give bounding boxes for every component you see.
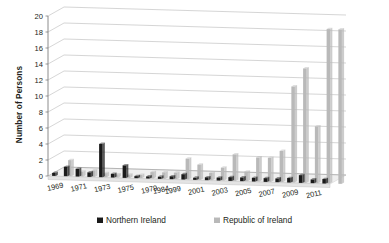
y-axis-tick-label: 8	[39, 108, 43, 117]
bar-northern-ireland	[76, 167, 82, 176]
bar-republic-of-ireland	[303, 67, 309, 183]
y-axis-tick-label: 18	[35, 28, 43, 37]
x-axis-tick-label: 2005	[234, 186, 252, 198]
chart-legend: Northern Ireland Republic of Ireland	[0, 216, 389, 224]
bar-northern-ireland	[299, 174, 305, 183]
y-axis-tick-label: 20	[35, 12, 43, 21]
x-axis-tick-label: 2009	[281, 187, 299, 199]
x-axis-tick-label: 2007	[258, 186, 276, 198]
y-axis-tick-label: 6	[39, 124, 43, 133]
x-axis-tick-label: 2003	[211, 185, 229, 197]
y-axis-tick-label: 2	[39, 156, 43, 165]
bar-northern-ireland	[64, 166, 70, 177]
bar-republic-of-ireland	[338, 28, 344, 184]
bar-northern-ireland	[322, 178, 328, 184]
bar-northern-ireland	[99, 143, 105, 178]
bar-republic-of-ireland	[291, 85, 297, 182]
y-axis-tick-label: 4	[39, 140, 43, 149]
legend-label-republic-of-ireland: Republic of Ireland	[223, 216, 292, 224]
y-axis-tick-label: 14	[35, 60, 43, 69]
legend-item-northern-ireland: Northern Ireland	[97, 216, 166, 224]
x-axis-tick-label: 1973	[93, 182, 111, 194]
chart-container: Number of Persons 0246810121416182019691…	[0, 0, 389, 243]
x-axis-tick-label: 1969	[46, 180, 64, 192]
y-axis-tick-label: 0	[39, 172, 43, 181]
bar-republic-of-ireland	[315, 125, 321, 183]
bar-northern-ireland	[287, 177, 293, 183]
x-axis-tick-label: 1971	[70, 181, 88, 193]
x-axis-tick-label: 2011	[305, 188, 323, 200]
x-axis-tick-label: 1975	[117, 182, 135, 194]
legend-label-northern-ireland: Northern Ireland	[106, 216, 166, 224]
bar-northern-ireland	[123, 164, 129, 178]
bar-northern-ireland	[181, 173, 187, 180]
legend-swatch-icon-northern-ireland	[97, 217, 103, 223]
bar-northern-ireland	[87, 171, 93, 177]
bar-republic-of-ireland	[327, 28, 333, 184]
legend-item-republic-of-ireland: Republic of Ireland	[214, 216, 292, 224]
y-axis-tick-label: 10	[35, 92, 43, 101]
x-axis-tick-label: 2001	[187, 184, 205, 196]
y-axis-tick-label: 16	[35, 44, 43, 53]
chart-plot-area: 0246810121416182019691971197319751979198…	[0, 0, 389, 243]
legend-swatch-icon-republic-of-ireland	[214, 217, 220, 223]
y-axis-tick-label: 12	[35, 76, 43, 85]
